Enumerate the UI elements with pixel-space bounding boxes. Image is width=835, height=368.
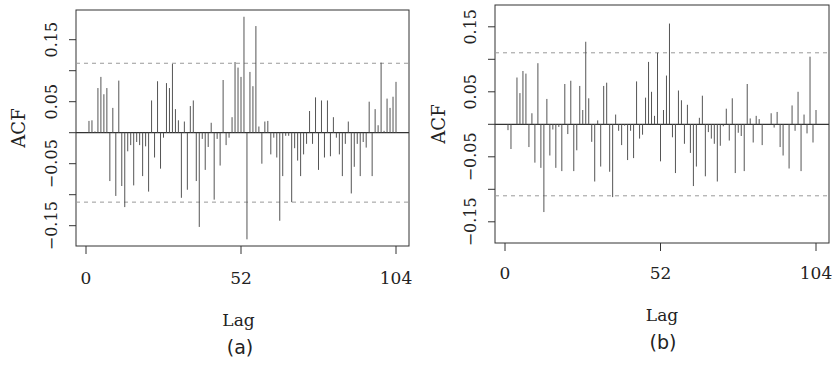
acf-chart-b: −0.15−0.050.050.15052104LagACF [420, 0, 835, 368]
x-tick-label: 104 [380, 268, 412, 288]
y-tick-label: −0.15 [462, 197, 481, 246]
y-axis-label: ACF [428, 104, 449, 144]
x-tick-label: 52 [230, 268, 252, 288]
x-tick-label: 0 [500, 263, 511, 283]
acf-panel-b: −0.15−0.050.050.15052104LagACF (b) [420, 0, 835, 368]
x-tick-label: 52 [650, 263, 672, 283]
y-tick-label: 0.05 [43, 84, 62, 120]
y-tick-label: 0.15 [462, 9, 481, 45]
x-tick-label: 0 [81, 268, 92, 288]
y-tick-label: −0.15 [43, 201, 62, 250]
acf-chart-a: −0.15−0.050.050.15052104LagACF [0, 0, 420, 368]
y-tick-label: 0.05 [462, 74, 481, 110]
y-tick-label: 0.15 [43, 22, 62, 58]
acf-bars [508, 24, 816, 213]
x-axis-label: Lag [646, 305, 678, 325]
acf-bars [89, 17, 396, 240]
x-axis-label: Lag [222, 310, 254, 330]
panel-caption-b: (b) [623, 331, 703, 353]
panel-caption-a: (a) [200, 336, 280, 358]
y-axis-label: ACF [8, 108, 29, 148]
y-tick-label: −0.05 [43, 139, 62, 188]
acf-panel-a: −0.15−0.050.050.15052104LagACF (a) [0, 0, 420, 368]
x-tick-label: 104 [800, 263, 832, 283]
y-tick-label: −0.05 [462, 132, 481, 181]
plot-frame [76, 10, 409, 246]
